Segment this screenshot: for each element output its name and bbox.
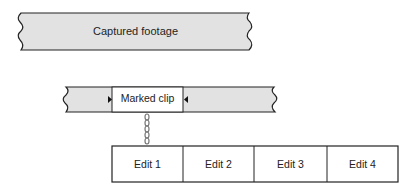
marked-clip-label: Marked clip: [112, 92, 183, 104]
chain-link-icon: [145, 114, 149, 144]
edit-4: Edit 4: [327, 146, 398, 182]
edit-3: Edit 3: [254, 146, 327, 182]
edit-1: Edit 1: [112, 146, 183, 182]
captured-footage-label: Captured footage: [21, 25, 250, 37]
edit-2: Edit 2: [183, 146, 254, 182]
diagram: Captured footage Marked clip Edit 1 Edit…: [0, 0, 417, 191]
